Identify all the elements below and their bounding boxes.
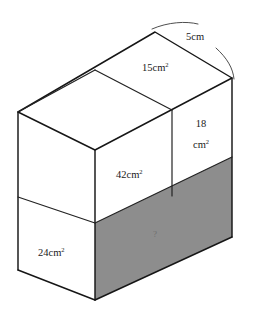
top-face-area-exponent: 2 [165,61,168,68]
right-face-area-value: 18 [196,118,207,129]
right-face-area-unit-line: cm2 [193,139,209,151]
top-face-area-value: 15cm [142,62,165,73]
left-face-area-value: 24cm [38,247,61,258]
left-face-area-label: 24cm2 [38,247,65,259]
front-face-area-value: 42cm [116,169,139,180]
unknown-area-label: ? [153,229,157,239]
unknown-area-value: ? [153,229,157,239]
top-face-area-label: 15cm2 [142,62,169,74]
depth-brace-upper-arc [152,22,198,29]
left-face-area-exponent: 2 [61,246,64,253]
right-face-area-label: 18 cm2 [193,118,209,151]
right-face-area-exponent: 2 [206,137,209,144]
depth-dimension-label: 5cm [186,31,204,43]
front-face-area-label: 42cm2 [116,169,143,181]
front-face-area-exponent: 2 [139,168,142,175]
depth-dimension-value: 5cm [186,31,204,42]
right-face-area-unit: cm [193,139,206,150]
geometry-figure: 15cm2 5cm 18 cm2 42cm2 24cm2 ? [0,0,253,325]
cuboid-drawing [0,0,253,325]
